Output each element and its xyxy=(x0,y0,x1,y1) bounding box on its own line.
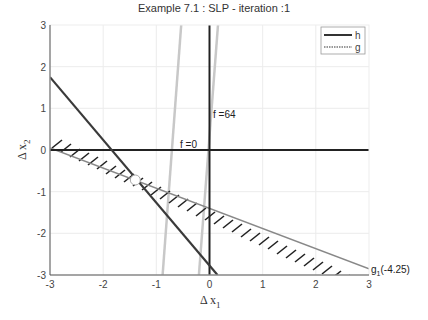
current-point-marker xyxy=(130,175,140,185)
legend: h g xyxy=(321,27,365,54)
svg-text:-2: -2 xyxy=(37,228,46,239)
svg-text:-1: -1 xyxy=(152,279,161,290)
annotation-g1: g1(-4.25) xyxy=(371,264,410,277)
svg-text:3: 3 xyxy=(366,279,372,290)
y-axis-label: Δ x2 xyxy=(15,139,32,160)
svg-text:-1: -1 xyxy=(37,187,46,198)
svg-text:2: 2 xyxy=(313,279,319,290)
annotation-f64: f =64 xyxy=(213,109,236,120)
legend-h-label: h xyxy=(355,30,361,41)
svg-text:-2: -2 xyxy=(99,279,108,290)
svg-text:0: 0 xyxy=(207,279,213,290)
legend-g-label: g xyxy=(355,42,361,53)
annotation-f0: f =0 xyxy=(180,139,197,150)
y-tick-labels: 3 2 1 0 -1 -2 -3 xyxy=(37,20,46,281)
svg-text:1: 1 xyxy=(40,103,46,114)
x-tick-labels: -3 -2 -1 0 1 2 3 xyxy=(46,279,373,290)
svg-text:-3: -3 xyxy=(46,279,55,290)
svg-text:0: 0 xyxy=(40,145,46,156)
x-axis-label: Δ x1 xyxy=(200,293,221,310)
chart-plot: 3 2 1 0 -1 -2 -3 -3 -2 -1 0 1 2 3 Δ x1 Δ… xyxy=(0,0,428,320)
svg-text:3: 3 xyxy=(40,20,46,31)
svg-text:2: 2 xyxy=(40,62,46,73)
svg-text:1: 1 xyxy=(260,279,266,290)
